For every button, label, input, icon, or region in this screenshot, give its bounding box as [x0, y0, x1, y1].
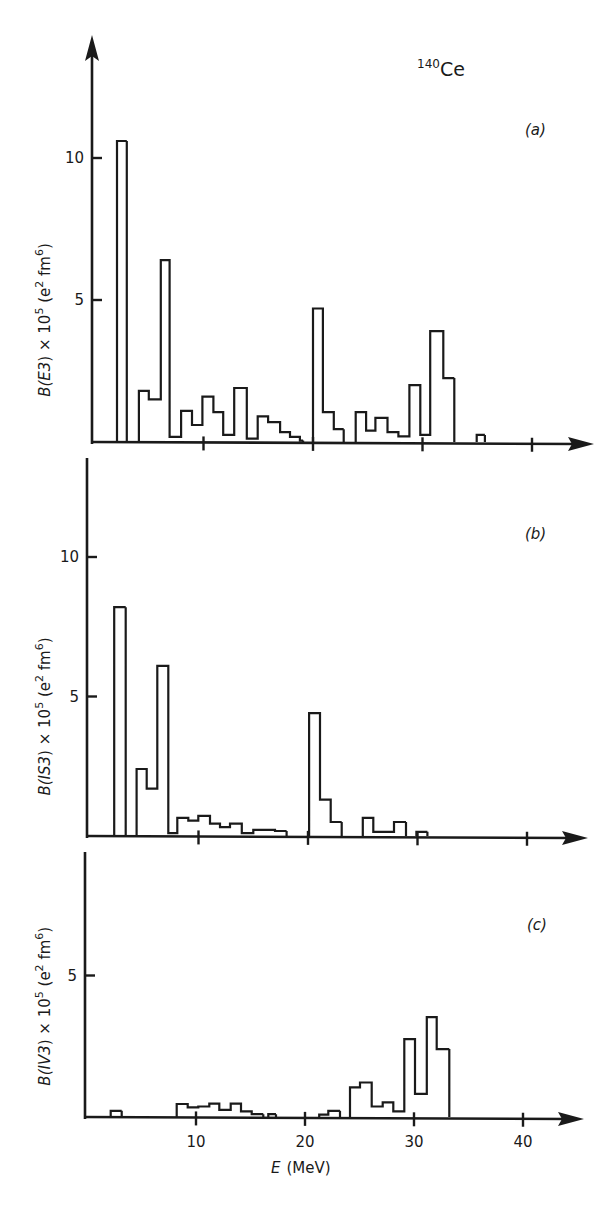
y-tick-label: 5	[74, 291, 84, 309]
y-tick-label: 5	[67, 967, 77, 985]
panel-label: (c)	[527, 916, 547, 934]
panel-c: 510203040B(IV3) × 105 (e2 fm6)(c)	[33, 852, 584, 1151]
y-tick-label: 5	[69, 688, 79, 706]
x-tick-label: 20	[295, 1133, 314, 1151]
y-axis-label: B(IV3) × 105 (e2 fm6)	[33, 927, 54, 1086]
histogram-series	[114, 607, 427, 836]
y-tick-label: 10	[65, 149, 84, 167]
panel-b: 510B(IS3) × 105 (e2 fm6)(b)	[33, 458, 588, 846]
histogram-series	[111, 1017, 450, 1117]
nucleus-title: 140Ce	[417, 57, 465, 80]
figure: 140Ce 510B(E3) × 105 (e2 fm6)(a) 510B(IS…	[0, 0, 614, 1205]
panel-label: (a)	[525, 121, 546, 139]
x-tick-label: 30	[404, 1133, 423, 1151]
x-tick-label: 40	[513, 1133, 532, 1151]
y-tick-label: 10	[60, 548, 79, 566]
panel-label: (b)	[525, 525, 546, 543]
panel-a: 510B(E3) × 105 (e2 fm6)(a)	[33, 35, 594, 452]
x-axis	[91, 442, 580, 444]
x-axis-label: E(MeV)	[271, 1159, 331, 1177]
x-axis	[86, 836, 574, 838]
chart-canvas: 140Ce 510B(E3) × 105 (e2 fm6)(a) 510B(IS…	[0, 0, 614, 1205]
x-tick-label: 10	[186, 1133, 205, 1151]
y-axis-label: B(IS3) × 105 (e2 fm6)	[33, 637, 54, 795]
x-axis	[84, 1117, 570, 1119]
histogram-series	[117, 141, 485, 442]
y-axis-label: B(E3) × 105 (e2 fm6)	[33, 243, 54, 397]
